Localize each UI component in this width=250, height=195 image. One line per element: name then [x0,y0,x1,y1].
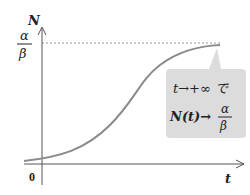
annotation-frac-numerator: α [221,102,229,116]
asymptote-label-numerator: α [20,28,29,43]
annotation-line1: t→+∞ で [173,81,229,96]
asymptote-label-denominator: β [18,46,27,61]
logistic-diagram: N α β 0 t t→+∞ で N(t)→ α β [0,0,250,195]
annotation-frac-denominator: β [219,119,227,133]
origin-label: 0 [29,170,35,184]
annotation-line2-lhs: N(t)→ [169,109,211,124]
y-axis-label: N [27,13,41,28]
x-axis-label: t [225,171,231,186]
